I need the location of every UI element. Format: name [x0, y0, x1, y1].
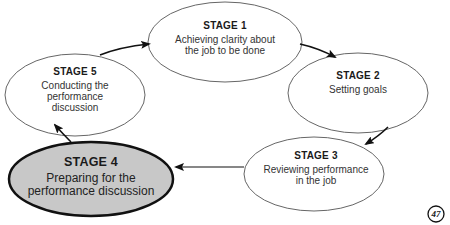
stage-3: STAGE 3 Reviewing performance in the job: [246, 150, 386, 186]
stage-5-desc-line-1: Conducting the: [15, 80, 135, 91]
arrow-stage5-to-stage1: [100, 44, 149, 55]
stage-2-title: STAGE 2: [298, 70, 418, 81]
page-number: 47: [427, 205, 445, 223]
stage-3-desc-line-2: in the job: [246, 175, 386, 186]
stage-2-desc-line-1: Setting goals: [298, 84, 418, 95]
stage-1-desc-line-1: Achieving clarity about: [150, 34, 300, 45]
stage-5: STAGE 5 Conducting the performance discu…: [15, 66, 135, 113]
stage-1-desc-line-2: the job to be done: [150, 45, 300, 56]
stage-5-title: STAGE 5: [15, 66, 135, 77]
stage-5-desc-line-3: discussion: [15, 102, 135, 113]
stage-4: STAGE 4 Preparing for the performance di…: [11, 155, 171, 198]
stage-1-title: STAGE 1: [150, 20, 300, 31]
stage-1: STAGE 1 Achieving clarity about the job …: [150, 20, 300, 56]
stage-5-desc-line-2: performance: [15, 91, 135, 102]
stage-2: STAGE 2 Setting goals: [298, 70, 418, 95]
stage-3-desc-line-1: Reviewing performance: [246, 164, 386, 175]
stage-3-title: STAGE 3: [246, 150, 386, 161]
stage-4-desc-line-2: performance discussion: [11, 185, 171, 198]
stage-4-title: STAGE 4: [11, 155, 171, 169]
arrow-stage1-to-stage2: [300, 44, 335, 57]
